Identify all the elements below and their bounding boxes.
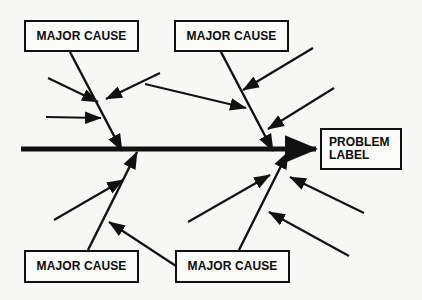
sub-cause-arrow-bottom-right-upper xyxy=(290,177,364,213)
major-cause-bottom-left[interactable]: MAJOR CAUSE xyxy=(24,250,139,283)
problem-label-label: PROBLEM LABEL xyxy=(329,136,390,162)
sub-cause-arrow-group xyxy=(46,48,364,266)
major-cause-bottom-right[interactable]: MAJOR CAUSE xyxy=(175,250,290,283)
sub-cause-arrow-top-left-lower xyxy=(46,117,101,118)
major-cause-bottom-left-label: MAJOR CAUSE xyxy=(37,260,127,273)
sub-cause-arrow-top-right-left xyxy=(145,84,246,108)
major-cause-top-left[interactable]: MAJOR CAUSE xyxy=(24,20,139,52)
major-cause-top-left-label: MAJOR CAUSE xyxy=(37,30,127,43)
major-cause-branch-top-right xyxy=(221,52,273,151)
major-cause-bottom-right-label: MAJOR CAUSE xyxy=(188,260,278,273)
major-cause-top-right[interactable]: MAJOR CAUSE xyxy=(174,20,289,52)
sub-cause-arrow-top-right-upper xyxy=(243,48,313,90)
major-cause-top-right-label: MAJOR CAUSE xyxy=(187,30,277,43)
major-cause-branch-bottom-right xyxy=(239,152,288,250)
problem-label[interactable]: PROBLEM LABEL xyxy=(320,128,402,170)
major-cause-branch-top-left xyxy=(70,52,122,151)
fishbone-diagram: MAJOR CAUSEMAJOR CAUSEMAJOR CAUSEMAJOR C… xyxy=(0,0,422,300)
sub-cause-arrow-top-right-lower xyxy=(268,88,334,129)
